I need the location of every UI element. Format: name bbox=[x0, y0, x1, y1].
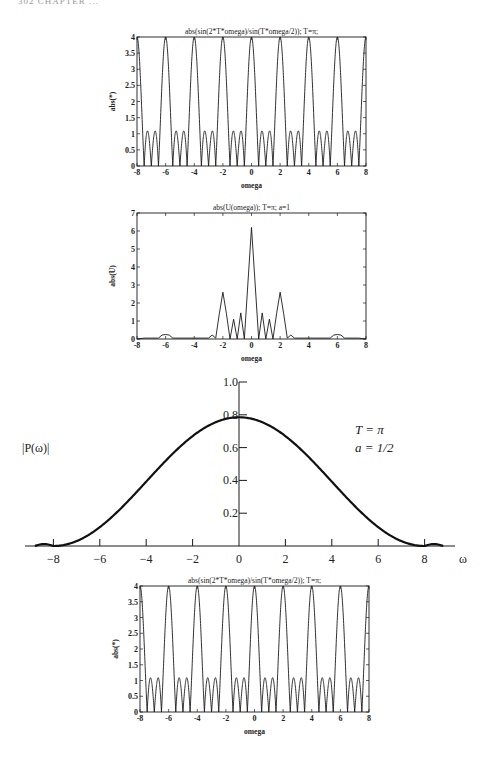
y-tick-label: 4 bbox=[131, 33, 135, 42]
y-tick-label: 0 bbox=[131, 162, 135, 171]
x-tick-label: -4 bbox=[191, 341, 198, 350]
x-tick-label: 0 bbox=[250, 341, 254, 350]
x-axis-label: omega bbox=[241, 181, 262, 190]
x-tick-label: 4 bbox=[307, 168, 311, 177]
x-axis-label: omega bbox=[244, 727, 265, 736]
plot-top-sinc-ratio: abs(sin(2*T*omega)/sin(T*omega/2)); T=π;… bbox=[108, 27, 368, 190]
x-tick-label: 4 bbox=[329, 552, 335, 566]
plot-big-p-omega: −8−6−4−202468ω0.20.40.60.81.0|P(ω)|T = π… bbox=[22, 375, 467, 566]
y-tick-label: 1 bbox=[131, 130, 135, 139]
x-tick-label: 0 bbox=[253, 714, 257, 723]
y-tick-label: 0.4 bbox=[223, 473, 238, 487]
x-tick-label: 4 bbox=[310, 714, 314, 723]
data-line bbox=[140, 586, 369, 712]
x-tick-label: -4 bbox=[194, 714, 201, 723]
x-tick-label: -2 bbox=[220, 168, 227, 177]
y-tick-label: 7 bbox=[131, 209, 135, 218]
plot-title: abs(sin(2*T*omega)/sin(T*omega/2)); T=π; bbox=[185, 27, 318, 36]
data-line bbox=[137, 227, 366, 339]
x-tick-label: −6 bbox=[93, 552, 106, 566]
y-tick-label: 3 bbox=[134, 614, 138, 623]
x-tick-label: -2 bbox=[220, 341, 227, 350]
annotation-a: a = 1/2 bbox=[355, 440, 394, 455]
x-tick-label: -6 bbox=[162, 168, 169, 177]
y-tick-label: 0.5 bbox=[125, 146, 135, 155]
y-tick-label: 6 bbox=[131, 227, 135, 236]
x-tick-label: 8 bbox=[367, 714, 371, 723]
y-tick-label: 1.5 bbox=[128, 661, 138, 670]
y-tick-label: 2 bbox=[131, 98, 135, 107]
plot-title: abs(sin(2*T*omega)/sin(T*omega/2)); T=π; bbox=[188, 576, 321, 585]
y-tick-label: 2.5 bbox=[125, 81, 135, 90]
y-tick-label: 1 bbox=[134, 677, 138, 686]
y-tick-label: 3 bbox=[131, 65, 135, 74]
x-tick-label: -2 bbox=[223, 714, 230, 723]
y-tick-label: 1.0 bbox=[223, 375, 238, 389]
y-tick-label: 4 bbox=[134, 582, 138, 591]
x-tick-label: 8 bbox=[364, 341, 368, 350]
plot-frame bbox=[140, 586, 369, 712]
x-tick-label: 8 bbox=[422, 552, 428, 566]
data-line bbox=[137, 37, 366, 166]
y-tick-label: 1 bbox=[131, 317, 135, 326]
y-tick-label: 0 bbox=[134, 708, 138, 717]
x-axis-label: ω bbox=[459, 552, 467, 566]
plot-frame bbox=[137, 37, 366, 166]
x-tick-label: −8 bbox=[47, 552, 60, 566]
y-axis-label: abs(*) bbox=[108, 91, 117, 111]
y-tick-label: 3.5 bbox=[128, 598, 138, 607]
y-tick-label: 0.6 bbox=[223, 441, 238, 455]
x-tick-label: 2 bbox=[281, 714, 285, 723]
x-tick-label: 8 bbox=[364, 168, 368, 177]
x-tick-label: 0 bbox=[236, 552, 242, 566]
x-tick-label: −4 bbox=[140, 552, 153, 566]
y-tick-label: 3 bbox=[131, 281, 135, 290]
figure-canvas: abs(sin(2*T*omega)/sin(T*omega/2)); T=π;… bbox=[0, 0, 482, 764]
x-tick-label: 2 bbox=[278, 341, 282, 350]
x-tick-label: −2 bbox=[186, 552, 199, 566]
x-tick-label: -6 bbox=[165, 714, 172, 723]
x-tick-label: 6 bbox=[335, 168, 339, 177]
y-tick-label: 5 bbox=[131, 245, 135, 254]
y-axis-label: abs(*) bbox=[111, 639, 120, 659]
x-tick-label: 4 bbox=[307, 341, 311, 350]
x-tick-label: -6 bbox=[162, 341, 169, 350]
y-axis-label: |P(ω)| bbox=[22, 441, 49, 455]
y-tick-label: 4 bbox=[131, 263, 135, 272]
y-tick-label: 2 bbox=[134, 645, 138, 654]
x-tick-label: 2 bbox=[282, 552, 288, 566]
plot-bottom-sinc-ratio: abs(sin(2*T*omega)/sin(T*omega/2)); T=π;… bbox=[111, 576, 371, 736]
x-tick-label: 6 bbox=[335, 341, 339, 350]
x-tick-label: 2 bbox=[278, 168, 282, 177]
plot-title: abs(U(omega)); T=π; a=1 bbox=[213, 203, 290, 212]
y-tick-label: 2 bbox=[131, 299, 135, 308]
x-tick-label: 6 bbox=[375, 552, 381, 566]
y-tick-label: 0.5 bbox=[128, 692, 138, 701]
y-tick-label: 0 bbox=[131, 335, 135, 344]
y-tick-label: 0.2 bbox=[223, 506, 238, 520]
y-tick-label: 2.5 bbox=[128, 629, 138, 638]
annotation-T: T = π bbox=[355, 422, 384, 437]
x-tick-label: 0 bbox=[250, 168, 254, 177]
x-tick-label: 6 bbox=[338, 714, 342, 723]
plot-middle-abs-u: abs(U(omega)); T=π; a=1-8-6-4-2024680123… bbox=[108, 203, 368, 363]
y-tick-label: 1.5 bbox=[125, 114, 135, 123]
y-tick-label: 3.5 bbox=[125, 49, 135, 58]
x-axis-label: omega bbox=[241, 354, 262, 363]
y-axis-label: abs(U) bbox=[108, 265, 117, 287]
x-tick-label: -4 bbox=[191, 168, 198, 177]
